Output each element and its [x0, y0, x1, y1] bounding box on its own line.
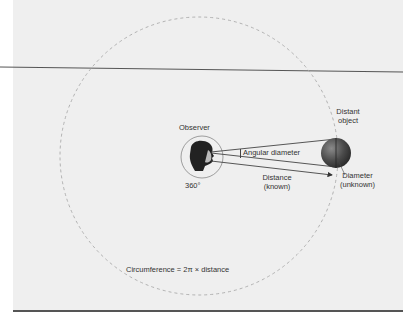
angular-diameter-label: Angular diameter [240, 149, 300, 158]
distant-object-label-line2: object [323, 117, 373, 126]
distance-label-line2: (known) [257, 183, 297, 192]
diameter-label: Diameter (unknown) [335, 172, 380, 189]
full-circle-label: 360° [185, 182, 201, 191]
distant-object-label: Distant object [323, 108, 373, 125]
observer-label: Observer [179, 124, 210, 133]
circumference-formula-label: Circumference = 2π × distance [126, 266, 229, 275]
observer-head-icon [190, 141, 214, 171]
top-rule-line [0, 67, 403, 72]
distance-label: Distance (known) [257, 174, 297, 191]
diameter-label-line2: (unknown) [335, 181, 380, 190]
